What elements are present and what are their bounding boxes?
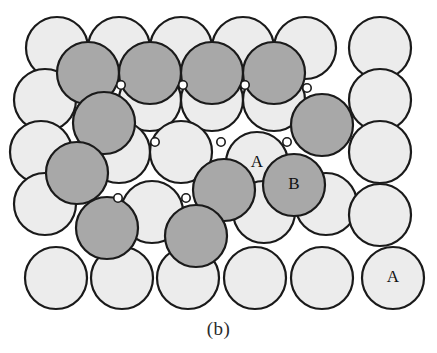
atom-b-b-r3-c3 — [263, 154, 325, 216]
atoms-group — [10, 17, 424, 309]
close-packed-plane-figure: ABA (b) — [0, 0, 437, 353]
atom-b-b-r4-c1 — [76, 197, 138, 259]
interstitial-void-void-2 — [179, 81, 187, 89]
atom-a-a-r5-c4 — [224, 247, 286, 309]
interstitial-void-void-6 — [217, 138, 225, 146]
atom-a-a-r3-c5 — [349, 121, 411, 183]
atom-a-a-r5-c5 — [291, 247, 353, 309]
atom-a-a-r4-c5 — [349, 184, 411, 246]
atomic-packing-diagram: ABA — [0, 0, 437, 320]
interstitial-void-void-1 — [117, 81, 125, 89]
atom-a-a-r5-c6 — [362, 247, 424, 309]
atom-b-b-r1-c3 — [181, 42, 243, 104]
figure-caption: (b) — [0, 318, 437, 340]
atom-b-b-r3-c1 — [46, 142, 108, 204]
atom-b-b-r1-c2 — [119, 42, 181, 104]
interstitial-void-void-5 — [151, 138, 159, 146]
atom-b-b-r4-c2 — [165, 205, 227, 267]
atom-a-a-r5-c1 — [25, 247, 87, 309]
atom-b-b-r2-c2 — [291, 94, 353, 156]
interstitial-void-void-4 — [303, 84, 311, 92]
interstitial-void-void-7 — [283, 138, 291, 146]
interstitial-void-void-3 — [241, 81, 249, 89]
interstitial-void-void-8 — [114, 194, 122, 202]
interstitial-void-void-9 — [182, 194, 190, 202]
atom-b-b-r1-c4 — [243, 42, 305, 104]
